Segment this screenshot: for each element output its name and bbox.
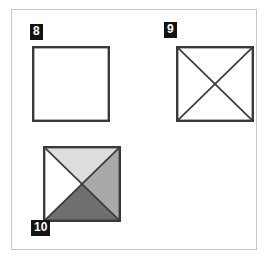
square-diagram-8 [32,46,110,122]
figure-label-8: 8 [30,24,43,40]
square-8-svg [32,46,110,122]
figure-panel: 8 9 [11,9,257,250]
square-diagram-9 [165,46,255,122]
figure-label-10: 10 [31,220,50,236]
square-9-svg [165,46,255,122]
square-diagram-10 [33,141,123,227]
square-10-svg [33,141,123,227]
figure-label-9: 9 [164,22,177,38]
square-8-face-top [33,47,109,121]
